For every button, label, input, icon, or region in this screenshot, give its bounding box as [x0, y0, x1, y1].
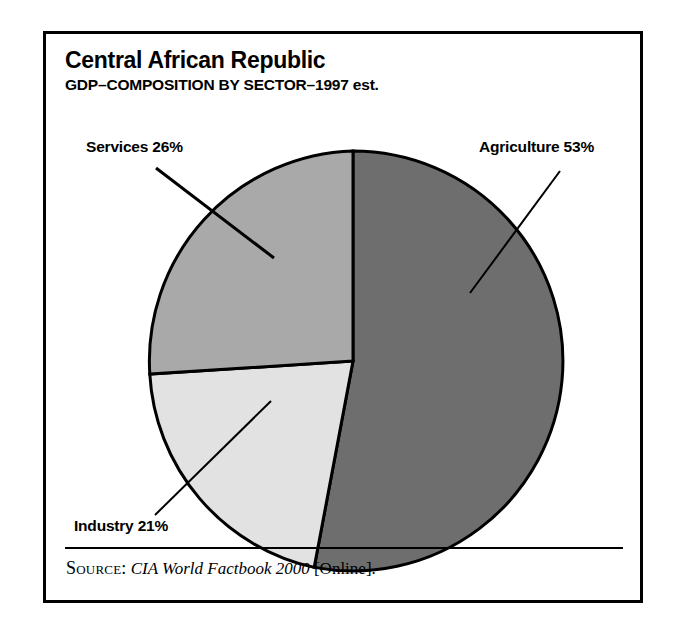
slice-label-services: Services 26% — [86, 138, 183, 156]
source-suffix: [Online]. — [314, 559, 376, 578]
slice-label-agriculture: Agriculture 53% — [479, 138, 594, 156]
figure-frame: Central African Republic GDP–COMPOSITION… — [43, 31, 643, 603]
source-divider — [65, 547, 623, 549]
pie-chart: Services 26% Agriculture 53% Industry 21… — [46, 34, 640, 600]
source-note: Source: CIA World Factbook 2000 [Online]… — [66, 558, 626, 579]
source-title: CIA World Factbook 2000 — [131, 559, 310, 578]
slice-label-industry: Industry 21% — [74, 517, 168, 535]
pie-chart-svg — [46, 34, 640, 600]
source-label: Source: — [66, 558, 126, 578]
